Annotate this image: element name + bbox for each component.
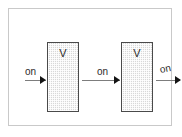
transition-in-label: on	[25, 66, 36, 77]
diagram-frame: on V on V on	[8, 8, 172, 126]
diagram-canvas: on V on V on	[0, 0, 182, 137]
transition-out-label: on	[159, 62, 172, 75]
state-node-1-label: V	[48, 47, 78, 59]
state-node-2[interactable]: V	[121, 42, 153, 112]
transition-in-arrowhead-icon	[40, 76, 46, 84]
state-node-2-label: V	[122, 47, 152, 59]
transition-mid-label: on	[97, 66, 108, 77]
state-node-1[interactable]: V	[47, 42, 79, 112]
transition-out-arrowhead-icon	[175, 76, 181, 84]
transition-mid-arrowhead-icon	[114, 76, 120, 84]
